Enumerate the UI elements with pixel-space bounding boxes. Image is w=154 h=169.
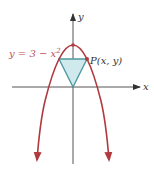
equation-label: y = 3 − x2 [8, 47, 61, 59]
parabola-diagram: y = 3 − x2 P(x, y) x y [0, 0, 154, 169]
x-axis-label: x [143, 81, 149, 92]
equation-exponent: 2 [55, 47, 61, 55]
vertex-dot [71, 43, 75, 47]
inscribed-triangle [59, 59, 87, 87]
point-p-dot [85, 57, 89, 61]
y-axis-label: y [77, 11, 84, 22]
point-p-label: P(x, y) [89, 55, 122, 66]
